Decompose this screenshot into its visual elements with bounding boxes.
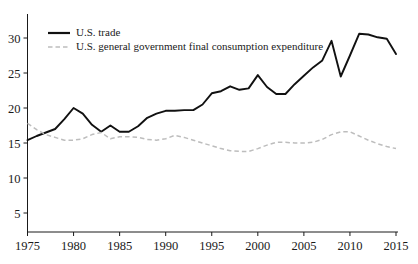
- x-tick-label: 2010: [337, 239, 362, 253]
- y-tick-label: 25: [8, 67, 21, 81]
- chart-legend: U.S. tradeU.S. general government final …: [48, 26, 323, 52]
- x-tick-label: 1995: [199, 239, 224, 253]
- x-axis-ticks: 197519801985199019952000200520102015: [15, 232, 409, 253]
- x-tick-label: 1990: [153, 239, 178, 253]
- x-tick-label: 2015: [384, 239, 409, 253]
- x-tick-label: 2000: [245, 239, 270, 253]
- x-tick-label: 2005: [291, 239, 316, 253]
- legend-label-0: U.S. trade: [76, 26, 120, 38]
- y-axis-ticks: 51015202530: [8, 32, 28, 221]
- legend-label-1: U.S. general government final consumptio…: [76, 40, 323, 52]
- chart-container: 51015202530 1975198019851990199520002005…: [0, 0, 418, 264]
- series-line-1: [28, 123, 397, 151]
- x-tick-label: 1985: [107, 239, 132, 253]
- y-tick-label: 10: [8, 172, 21, 186]
- y-tick-label: 5: [14, 207, 20, 221]
- x-tick-label: 1975: [15, 239, 40, 253]
- y-tick-label: 15: [8, 137, 21, 151]
- line-chart: 51015202530 1975198019851990199520002005…: [0, 0, 418, 264]
- y-tick-label: 30: [8, 32, 21, 46]
- y-tick-label: 20: [8, 102, 21, 116]
- x-tick-label: 1980: [61, 239, 86, 253]
